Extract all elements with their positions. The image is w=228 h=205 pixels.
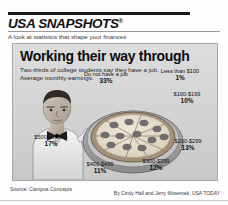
callout-300-399-value: 12% <box>131 165 181 172</box>
bottom-rule <box>0 200 228 201</box>
header-divider <box>8 31 220 32</box>
top-rule <box>8 12 190 15</box>
tagline: A look at statistics that shape your fin… <box>8 33 126 40</box>
callout-300-399: $300-$399 12% <box>131 158 181 171</box>
page-title: Working their way through <box>20 48 190 64</box>
callout-no-job: Do not have a job 33% <box>73 71 139 84</box>
callout-400-499-value: 11% <box>75 168 125 175</box>
callout-500-or-more: $500 or more 17% <box>25 134 77 147</box>
source-note: Source: Campus Concepts <box>10 186 72 192</box>
callout-less-than-100-value: 1% <box>149 75 211 82</box>
callout-no-job-value: 33% <box>73 78 139 85</box>
chart-panel: Working their way through Two-thirds of … <box>12 43 218 181</box>
brand-title: USA SNAPSHOTS® <box>8 16 123 31</box>
callout-less-than-100: Less than $100 1% <box>149 68 211 81</box>
callout-200-299-value: 13% <box>161 145 215 152</box>
callout-400-499: $400-$499 11% <box>75 161 125 174</box>
brand-text: USA SNAPSHOTS <box>8 16 119 31</box>
callout-500-or-more-value: 17% <box>25 141 77 148</box>
byline: By Cindy Hall and Jerry Mosemak, USA TOD… <box>114 190 220 196</box>
callout-100-199-value: 10% <box>159 98 215 105</box>
registered-mark-icon: ® <box>119 18 123 24</box>
callout-200-299: $200-$299 13% <box>161 138 215 151</box>
snapshot-graphic: USA SNAPSHOTS® A look at statistics that… <box>0 0 228 205</box>
callout-100-199: $100-$199 10% <box>159 91 215 104</box>
